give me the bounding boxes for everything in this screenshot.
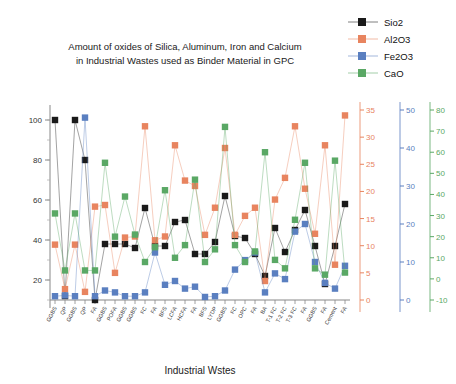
- xticklabel-10: FA: [149, 305, 158, 314]
- datapoint-fe2o3-1: [62, 292, 68, 298]
- ticklabel-al2o3-15: 15: [366, 215, 375, 224]
- datapoint-al2o3-29: [342, 112, 348, 118]
- axis-sio2-left: 20406080100: [29, 105, 50, 308]
- datapoint-sio2-11: [162, 243, 168, 249]
- datapoint-cao-22: [272, 257, 278, 263]
- datapoint-fe2o3-2: [72, 293, 78, 299]
- ticklabel-al2o3-0: 0: [366, 296, 371, 305]
- datapoint-fe2o3-7: [122, 293, 128, 299]
- datapoint-cao-5: [102, 160, 108, 166]
- ticklabel-al2o3-10: 10: [366, 242, 375, 251]
- ticklabel-al2o3-25: 25: [366, 160, 375, 169]
- datapoint-sio2-6: [112, 241, 118, 247]
- legend-marker-cao: [358, 69, 366, 77]
- datapoint-al2o3-27: [322, 142, 328, 148]
- datapoint-fe2o3-11: [162, 282, 168, 288]
- datapoint-sio2-2: [72, 117, 78, 123]
- ticklabel-al2o3-35: 35: [366, 106, 375, 115]
- datapoint-cao-12: [172, 255, 178, 261]
- datapoint-al2o3-4: [92, 203, 98, 209]
- datapoint-cao-18: [232, 242, 238, 248]
- datapoint-cao-3: [82, 267, 88, 273]
- datapoint-cao-1: [62, 267, 68, 273]
- ticklabel-cao-70: 70: [436, 127, 445, 136]
- legend-label-fe2o3: Fe2O3: [384, 51, 413, 62]
- datapoint-fe2o3-23: [282, 276, 288, 282]
- xticklabel-29: FA: [339, 305, 348, 314]
- xticklabel-20: FA: [249, 305, 258, 314]
- datapoint-cao-11: [162, 187, 168, 193]
- datapoint-sio2-8: [132, 245, 138, 251]
- datapoint-cao-17: [222, 124, 228, 130]
- datapoint-cao-24: [292, 217, 298, 223]
- xticklabel-1: QP: [59, 305, 68, 315]
- datapoint-fe2o3-6: [112, 289, 118, 295]
- datapoint-sio2-19: [242, 235, 248, 241]
- ticklabel-cao-10: 10: [436, 254, 445, 263]
- datapoint-cao-16: [212, 246, 218, 252]
- series-cao: [52, 124, 348, 278]
- datapoint-cao-29: [342, 269, 348, 275]
- datapoint-fe2o3-27: [322, 280, 328, 286]
- ticklabel-cao-0: 0: [436, 275, 441, 284]
- datapoint-cao-13: [182, 242, 188, 248]
- ticklabel-fe2o3-30: 30: [406, 182, 415, 191]
- ticklabel-sio2-60: 60: [33, 196, 42, 205]
- ticklabel-fe2o3-50: 50: [406, 106, 415, 115]
- datapoint-al2o3-10: [152, 237, 158, 243]
- datapoint-al2o3-3: [82, 289, 88, 295]
- xticklabel-19: OPC: [237, 306, 248, 320]
- datapoint-cao-15: [202, 259, 208, 265]
- datapoint-cao-7: [122, 193, 128, 199]
- xticklabel-13: HCFA: [176, 305, 188, 321]
- datapoint-sio2-14: [192, 251, 198, 257]
- datapoint-sio2-29: [342, 201, 348, 207]
- datapoint-cao-6: [112, 233, 118, 239]
- datapoint-cao-19: [242, 259, 248, 265]
- ticklabel-cao-30: 30: [436, 212, 445, 221]
- ticklabel-fe2o3-20: 20: [406, 220, 415, 229]
- chart-container: Amount of oxides of Silica, Aluminum, Ir…: [0, 0, 456, 384]
- datapoint-al2o3-22: [272, 196, 278, 202]
- legend-label-al2o3: Al2O3: [384, 34, 410, 45]
- datapoint-al2o3-1: [62, 286, 68, 292]
- datapoint-al2o3-18: [232, 232, 238, 238]
- xticklabel-21: BA: [259, 305, 268, 315]
- chart-title-line2: in Industrial Wastes used as Binder Mate…: [76, 55, 294, 66]
- datapoint-al2o3-16: [212, 205, 218, 211]
- series-line-fe2o3: [55, 118, 345, 297]
- ticklabel-cao-40: 40: [436, 190, 445, 199]
- xticklabel-14: FA: [189, 305, 198, 314]
- axis-cao-right: -1001020304050607080: [430, 102, 448, 312]
- datapoint-cao-27: [322, 271, 328, 277]
- ticklabel-cao-60: 60: [436, 148, 445, 157]
- datapoint-cao-26: [312, 265, 318, 271]
- datapoint-fe2o3-13: [182, 285, 188, 291]
- datapoint-sio2-17: [222, 193, 228, 199]
- datapoint-fe2o3-5: [102, 287, 108, 293]
- datapoint-fe2o3-15: [202, 294, 208, 300]
- ticklabel-al2o3-5: 5: [366, 269, 371, 278]
- datapoint-fe2o3-21: [262, 289, 268, 295]
- datapoint-cao-9: [142, 259, 148, 265]
- chart-legend: Sio2Al2O3Fe2O3CaO: [348, 17, 413, 79]
- ticklabel-fe2o3-0: 0: [406, 296, 411, 305]
- ticklabel-sio2-40: 40: [33, 236, 42, 245]
- datapoint-sio2-12: [172, 219, 178, 225]
- legend-marker-fe2o3: [358, 52, 366, 60]
- axis-fe2o3-right: 01020304050: [400, 102, 415, 312]
- ticklabel-sio2-100: 100: [29, 116, 43, 125]
- datapoint-cao-28: [332, 157, 338, 163]
- legend-marker-al2o3: [358, 35, 366, 43]
- datapoint-al2o3-19: [242, 213, 248, 219]
- ticklabel-cao--10: -10: [436, 296, 448, 305]
- datapoint-al2o3-23: [282, 175, 288, 181]
- datapoint-al2o3-13: [182, 177, 188, 183]
- datapoint-cao-0: [52, 210, 58, 216]
- datapoint-al2o3-15: [202, 232, 208, 238]
- datapoint-fe2o3-29: [342, 263, 348, 269]
- datapoint-fe2o3-4: [92, 293, 98, 299]
- ticklabel-sio2-80: 80: [33, 156, 42, 165]
- xaxis-title: Industrial Wstes: [164, 365, 235, 376]
- series-line-cao: [55, 127, 345, 275]
